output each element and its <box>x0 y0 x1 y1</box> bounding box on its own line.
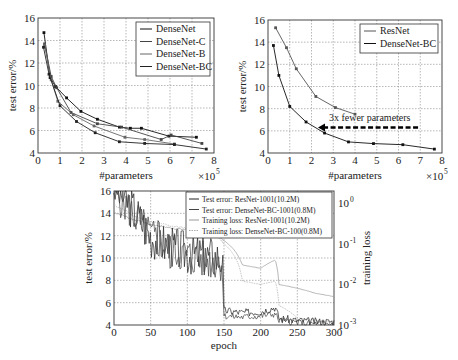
y2-tick-label: 10 <box>338 197 350 209</box>
data-marker <box>160 138 163 141</box>
y2-tick-label: 10 <box>338 278 350 290</box>
y-tick-label: 4 <box>106 319 112 331</box>
x-tick-label: 0 <box>35 154 41 166</box>
legend-label: ResNet <box>380 25 410 36</box>
x-tick-label: 50 <box>145 326 157 338</box>
data-marker <box>43 31 46 34</box>
x-tick-label: 8 <box>211 154 217 166</box>
y-tick-label: 12 <box>24 57 35 69</box>
figure: 01234567846810121416#parameterstest erro… <box>0 0 458 360</box>
data-marker <box>433 148 436 151</box>
y-tick-label: 16 <box>24 12 36 24</box>
data-marker <box>372 142 375 145</box>
legend-label: Training loss: DenseNet-BC-100(0.8M) <box>202 227 322 236</box>
legend: ResNetDenseNet-BC <box>360 24 438 53</box>
legend-label: Training loss: ResNet-1001(10.2M) <box>202 216 310 225</box>
y2-axis-label: training loss <box>360 231 372 285</box>
data-marker <box>195 136 198 139</box>
data-marker <box>305 121 308 124</box>
x-multiplier-label: ×10 <box>198 170 216 182</box>
y-tick-label: 12 <box>100 230 111 242</box>
x-axis-label: #parameters <box>99 169 153 181</box>
data-marker <box>205 148 208 151</box>
y-tick-label: 10 <box>100 252 112 264</box>
x-tick-label: 1 <box>287 154 293 166</box>
data-marker <box>143 138 146 141</box>
y-tick-label: 4 <box>260 147 266 159</box>
x-tick-label: 7 <box>418 154 424 166</box>
data-marker <box>94 131 97 134</box>
data-marker <box>120 126 123 129</box>
legend-label: DenseNet <box>156 23 196 34</box>
data-marker <box>55 86 58 89</box>
data-marker <box>143 142 146 145</box>
data-marker <box>401 143 404 146</box>
y-tick-label: 8 <box>106 274 112 286</box>
x-tick-label: 3 <box>331 154 337 166</box>
x-tick-label: 5 <box>374 154 380 166</box>
data-marker <box>96 122 99 125</box>
data-marker <box>48 73 51 76</box>
y-tick-label: 10 <box>24 80 36 92</box>
y-tick-label: 6 <box>30 125 36 137</box>
y-tick-label: 4 <box>30 147 36 159</box>
x-tick-label: 150 <box>216 326 233 338</box>
x-tick-label: 2 <box>79 154 85 166</box>
chart-params-vs-error-resnet-vs-densenet: 01234567846810121416#parameterstest erro… <box>236 14 448 182</box>
chart-epoch-vs-error-and-loss: 0501001502002503004681012141610-310-210-… <box>82 185 372 351</box>
legend: Test error: ResNet-1001(10.2M)Test error… <box>186 192 332 238</box>
x-tick-label: 3 <box>101 154 107 166</box>
y-tick-label: 14 <box>24 35 36 47</box>
data-marker <box>288 105 291 108</box>
x-multiplier-exponent: 5 <box>444 167 448 176</box>
x-tick-label: 8 <box>439 154 445 166</box>
data-marker <box>75 120 78 123</box>
x-tick-label: 7 <box>189 154 195 166</box>
annotation-arrow-head <box>318 124 325 132</box>
chart-params-vs-error-densenet-variants: 01234567846810121416#parameterstest erro… <box>6 12 220 182</box>
data-marker <box>170 134 173 137</box>
data-marker <box>277 74 280 77</box>
y-tick-label: 10 <box>254 81 266 93</box>
data-marker <box>124 136 127 139</box>
data-marker <box>334 106 337 109</box>
x-multiplier-label: ×10 <box>426 170 444 182</box>
y-tick-label: 16 <box>100 185 112 197</box>
y-tick-label: 6 <box>106 297 112 309</box>
data-marker <box>173 143 176 146</box>
data-marker <box>347 141 350 144</box>
x-tick-label: 250 <box>289 326 306 338</box>
x-tick-label: 200 <box>252 326 269 338</box>
data-marker <box>59 104 62 107</box>
y-tick-label: 6 <box>260 125 266 137</box>
y-tick-label: 8 <box>260 103 266 115</box>
x-tick-label: 0 <box>111 326 117 338</box>
data-marker <box>65 96 68 99</box>
x-tick-label: 5 <box>145 154 151 166</box>
x-tick-label: 6 <box>396 154 402 166</box>
annotation-text: 3x fewer parameters <box>329 112 411 123</box>
y-tick-label: 12 <box>254 58 265 70</box>
y2-tick-exponent: -1 <box>350 236 356 245</box>
y-axis-label: test error/% <box>6 60 18 112</box>
x-tick-label: 1 <box>57 154 63 166</box>
data-marker <box>295 67 298 70</box>
legend-label: DenseNet-C <box>156 36 206 47</box>
data-marker <box>323 132 326 135</box>
y2-tick-exponent: -3 <box>350 317 356 326</box>
data-marker <box>201 142 204 145</box>
y-tick-label: 8 <box>30 102 36 114</box>
legend-label: DenseNet-B <box>156 48 206 59</box>
legend-label: Test error: DenseNet-BC-1001(0.8M) <box>202 206 316 215</box>
y2-tick-label: 10 <box>338 319 350 331</box>
x-tick-label: 4 <box>352 154 358 166</box>
data-marker <box>93 125 96 128</box>
series-line-densenet-bc <box>273 45 434 149</box>
y2-tick-exponent: 0 <box>350 195 354 204</box>
legend-label: DenseNet-BC <box>380 38 436 49</box>
data-marker <box>274 26 277 29</box>
data-marker <box>140 127 143 130</box>
y2-tick-exponent: -2 <box>350 276 356 285</box>
x-tick-label: 4 <box>123 154 129 166</box>
x-tick-label: 6 <box>167 154 173 166</box>
